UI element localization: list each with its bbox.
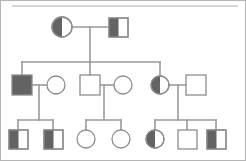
half-fill-left — [207, 130, 217, 149]
half-fill-left — [109, 18, 119, 37]
symbol-gen2-child-2-male-square-empty[interactable] — [80, 75, 100, 95]
symbol-gen2-child-1-male-square-full[interactable] — [12, 75, 32, 95]
symbol-founder-female-circle-half[interactable] — [52, 17, 72, 37]
symbol-gen2-spouse-1-female-circle-empty[interactable] — [47, 76, 65, 94]
symbol-gen3-child-3-female-circle-empty[interactable] — [77, 130, 95, 148]
symbol-gen3-child-4-female-circle-empty[interactable] — [112, 130, 130, 148]
symbol-gen3-child-7-male-square-half[interactable] — [207, 130, 226, 149]
symbol-gen3-child-5-female-circle-half[interactable] — [146, 130, 164, 148]
symbol-founder-male-square-half[interactable] — [109, 18, 128, 37]
symbol-gen3-child-2-male-square-half[interactable] — [44, 130, 63, 149]
half-fill-left — [44, 130, 54, 149]
symbol-gen2-spouse-3-male-square-empty[interactable] — [186, 75, 206, 95]
pedigree-figure — [0, 0, 246, 161]
symbol-gen3-child-6-male-square-empty[interactable] — [178, 130, 197, 149]
symbol-gen3-child-1-male-square-half[interactable] — [9, 130, 28, 149]
symbol-gen2-spouse-2-female-circle-empty[interactable] — [114, 76, 132, 94]
pedigree-canvas — [0, 0, 246, 161]
half-fill-left — [9, 130, 19, 149]
symbol-gen2-child-3-female-circle-half[interactable] — [151, 76, 169, 94]
